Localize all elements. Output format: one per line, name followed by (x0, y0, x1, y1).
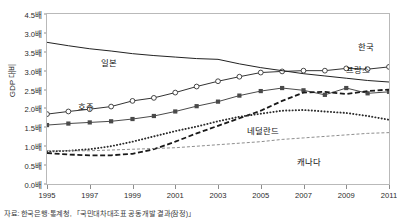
series-label-프랑스: 프랑스 (346, 63, 369, 75)
series-marker (109, 119, 113, 123)
series-marker (323, 93, 327, 97)
series-네덜란드 (47, 110, 389, 152)
x-tick-label: 2009 (338, 191, 355, 200)
series-marker (322, 68, 327, 73)
y-tick-label: 4.5배 (2, 9, 46, 20)
source-footnote: 자료: 한국은행·통계청, 「국민대차대조표 공동개발 결과(잠정)」 (4, 208, 195, 218)
series-marker (173, 90, 178, 95)
y-tick-label: 2.0배 (2, 103, 46, 114)
series-marker (216, 100, 220, 104)
x-tick-label: 2005 (252, 191, 269, 200)
series-marker (301, 68, 306, 73)
series-일본 (47, 42, 389, 82)
y-tick-label: 3.0배 (2, 27, 46, 38)
x-tick-mark (90, 185, 91, 189)
x-tick-mark (218, 185, 219, 189)
y-tick-label: 1.5배 (2, 122, 46, 133)
series-marker (280, 86, 284, 90)
series-canvas (47, 14, 389, 184)
series-line (47, 110, 389, 152)
series-label-캐나다: 캐나다 (297, 155, 320, 167)
series-label-한국: 한국 (358, 40, 374, 52)
x-tick-mark (175, 185, 176, 189)
x-tick-label: 1997 (81, 191, 98, 200)
series-marker (66, 121, 70, 125)
series-marker (173, 109, 177, 113)
series-marker (387, 64, 389, 69)
x-tick-mark (346, 185, 347, 189)
series-marker (109, 104, 114, 109)
x-tick-mark (261, 185, 262, 189)
x-tick-mark (133, 185, 134, 189)
series-marker (344, 86, 348, 90)
series-marker (47, 123, 49, 127)
series-marker (66, 109, 71, 114)
series-label-호주: 호주 (78, 100, 94, 112)
series-marker (237, 94, 241, 98)
series-marker (216, 79, 221, 84)
y-tick-label: 3.5배 (2, 46, 46, 57)
series-line (47, 88, 389, 125)
series-marker (47, 112, 49, 117)
y-tick-label: 0.5배 (2, 160, 46, 171)
series-marker (152, 114, 156, 118)
x-tick-label: 1999 (124, 191, 141, 200)
series-marker (237, 74, 242, 79)
x-tick-mark (304, 185, 305, 189)
series-marker (88, 120, 92, 124)
series-marker (195, 104, 199, 108)
series-marker (280, 69, 285, 74)
y-axis-ticks: 4.5배3.0배3.5배3.0배2.5배2.0배1.5배1.0배0.5배0.0배 (0, 13, 46, 185)
series-marker (259, 89, 263, 93)
series-marker (130, 117, 134, 121)
x-tick-label: 2001 (167, 191, 184, 200)
series-marker (258, 70, 263, 75)
series-marker (194, 84, 199, 89)
series-label-일본: 일본 (101, 56, 117, 68)
x-tick-label: 2011 (381, 191, 397, 200)
series-marker (151, 95, 156, 100)
series-line (47, 42, 389, 82)
y-tick-label: 1.0배 (2, 141, 46, 152)
x-tick-mark (47, 185, 48, 189)
y-tick-label: 3.0배 (2, 65, 46, 76)
series-호주 (47, 86, 389, 127)
series-label-네덜란드: 네덜란드 (247, 124, 278, 136)
plot-area (46, 13, 390, 185)
x-tick-label: 1995 (39, 191, 56, 200)
y-tick-label: 2.5배 (2, 84, 46, 95)
series-marker (130, 98, 135, 103)
x-tick-label: 2003 (210, 191, 227, 200)
x-tick-label: 2007 (295, 191, 312, 200)
x-tick-mark (389, 185, 390, 189)
y-tick-label: 0.0배 (2, 179, 46, 190)
